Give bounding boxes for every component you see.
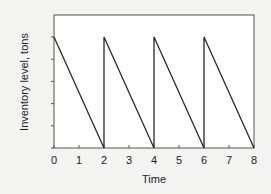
x-tick-label: 5: [176, 154, 182, 166]
x-tick-label: 8: [251, 154, 257, 166]
sawtooth-inventory-chart: 012345678 Time Inventory level, tons: [0, 0, 271, 194]
x-axis-label: Time: [142, 173, 166, 185]
x-tick-label: 0: [51, 154, 57, 166]
x-tick-label: 1: [76, 154, 82, 166]
x-tick-label: 7: [226, 154, 232, 166]
x-tick-label: 3: [126, 154, 132, 166]
x-tick-label: 4: [151, 154, 157, 166]
y-axis-label: Inventory level, tons: [18, 33, 30, 131]
x-tick-label: 2: [101, 154, 107, 166]
x-tick-label: 6: [201, 154, 207, 166]
